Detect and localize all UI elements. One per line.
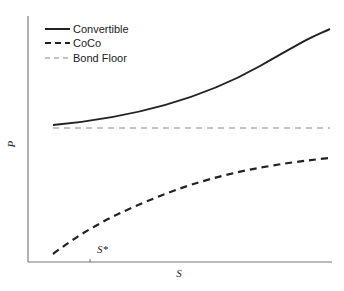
x-axis-label: S — [176, 267, 182, 279]
coco-line — [53, 158, 330, 254]
s-star-label: S* — [97, 243, 109, 255]
y-axis-label: P — [5, 140, 17, 148]
legend-convertible-label: Convertible — [73, 23, 129, 35]
chart: Convertible CoCo Bond Floor P S S* — [0, 0, 344, 291]
legend-coco-label: CoCo — [73, 37, 101, 49]
legend: Convertible CoCo Bond Floor — [45, 23, 129, 64]
legend-bond-floor-label: Bond Floor — [73, 52, 127, 64]
